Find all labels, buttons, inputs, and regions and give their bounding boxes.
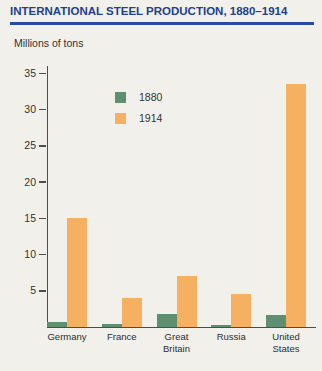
y-tick-mark-15 — [39, 218, 46, 220]
y-tick-label-25: 25 — [2, 139, 36, 151]
legend-swatch-1880 — [115, 92, 126, 103]
legend-label-1880: 1880 — [139, 91, 162, 103]
y-tick-mark-10 — [39, 254, 46, 256]
chart-page: { "header": { "title": "INTERNATIONAL ST… — [0, 0, 322, 371]
chart-title: INTERNATIONAL STEEL PRODUCTION, 1880–191… — [10, 5, 287, 17]
y-tick-label-30: 30 — [2, 103, 36, 115]
legend-item-1880: 1880 — [115, 91, 162, 103]
y-tick-mark-5 — [39, 290, 46, 292]
legend-item-1914: 1914 — [115, 112, 162, 124]
bar-1880-russia — [211, 325, 231, 327]
y-tick-label-35: 35 — [2, 67, 36, 79]
y-axis-units-label: Millions of tons — [14, 37, 83, 49]
y-tick-mark-30 — [39, 109, 46, 111]
bar-1880-great-britain — [157, 314, 177, 327]
y-tick-label-20: 20 — [2, 176, 36, 188]
y-tick-label-10: 10 — [2, 248, 36, 260]
y-tick-mark-25 — [39, 145, 46, 147]
chart-plot: 5101520253035GermanyFranceGreat BritainR… — [47, 66, 316, 328]
legend-label-1914: 1914 — [139, 112, 162, 124]
bar-1880-germany — [47, 322, 67, 327]
y-tick-label-15: 15 — [2, 212, 36, 224]
y-tick-mark-35 — [39, 73, 46, 75]
y-tick-mark-20 — [39, 181, 46, 183]
y-tick-label-5: 5 — [2, 284, 36, 296]
bar-1880-united-states — [266, 315, 286, 327]
x-axis-label-united-states: United States — [254, 331, 318, 356]
bar-1914-france — [122, 298, 142, 327]
title-underline-rule — [10, 22, 314, 25]
legend-swatch-1914 — [115, 113, 126, 124]
legend: 1880 1914 — [115, 91, 162, 133]
bar-1914-germany — [67, 218, 87, 327]
bar-1914-united-states — [286, 84, 306, 327]
bar-1914-great-britain — [177, 276, 197, 327]
bar-1880-france — [102, 324, 122, 327]
bar-1914-russia — [231, 294, 251, 327]
